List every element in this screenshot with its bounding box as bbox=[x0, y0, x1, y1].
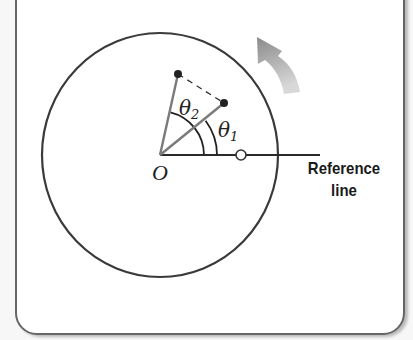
point-1 bbox=[220, 99, 228, 107]
rotation-arrow-icon bbox=[257, 37, 300, 94]
theta2-label: θ2 bbox=[179, 96, 199, 122]
reference-label-line2: line bbox=[296, 180, 393, 202]
point-2 bbox=[174, 70, 182, 78]
theta1-label: θ1 bbox=[218, 118, 238, 144]
reference-line-label: Reference line bbox=[296, 158, 393, 202]
reference-marker bbox=[236, 150, 246, 160]
reference-label-line1: Reference bbox=[296, 158, 393, 180]
origin-label: O bbox=[152, 160, 168, 186]
theta1-arc bbox=[206, 121, 217, 155]
